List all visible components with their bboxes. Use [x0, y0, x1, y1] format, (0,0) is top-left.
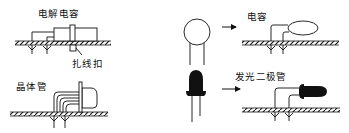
transistor-label: 晶体管 [16, 82, 47, 92]
diagram-svg [0, 0, 349, 133]
upright-capacitor [184, 19, 210, 65]
ceramic-capacitor-panel [184, 19, 339, 65]
upright-led [186, 70, 206, 122]
led-label: 发光二极管 [235, 72, 287, 82]
pcb-board [242, 41, 339, 45]
electrolytic-capacitor-label: 电解电容 [38, 9, 79, 19]
transistor-body [79, 82, 97, 112]
capacitor-body [54, 25, 97, 41]
ceramic-capacitor-label: 电容 [247, 12, 268, 22]
pcb-board [10, 112, 108, 116]
diagram-canvas: 电解电容 扎线扣 晶体管 电容 发光二极管 [0, 0, 349, 133]
pcb-board [15, 41, 111, 45]
transistor-leads [50, 92, 79, 128]
cable-tie-label: 扎线扣 [72, 59, 103, 69]
lying-led [271, 84, 327, 121]
electrolytic-capacitor-panel [15, 25, 111, 55]
lying-capacitor [267, 21, 318, 54]
pcb-board [242, 108, 340, 112]
cable-tie [70, 45, 82, 55]
